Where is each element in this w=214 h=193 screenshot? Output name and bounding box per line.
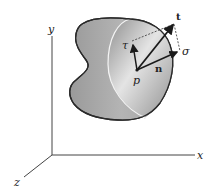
- shear-stress-label: τ: [122, 39, 129, 52]
- z-axis-label: z: [13, 176, 20, 189]
- stress-diagram: y x z p t τ σ n: [0, 0, 214, 193]
- point-p: [135, 68, 138, 71]
- z-axis: [24, 155, 52, 177]
- normal-stress-label: σ: [182, 45, 190, 58]
- normal-vector-label: n: [155, 63, 163, 74]
- x-axis-label: x: [197, 149, 204, 162]
- y-axis-label: y: [47, 23, 55, 36]
- point-p-label: p: [133, 74, 140, 87]
- traction-label: t: [176, 11, 181, 22]
